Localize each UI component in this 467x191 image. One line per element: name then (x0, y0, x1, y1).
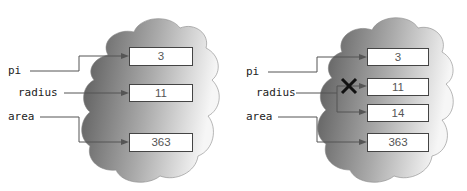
var-label-area: area (246, 110, 273, 123)
memory-cell-area: 363 (129, 133, 193, 152)
memory-cell-radius: 11 (129, 84, 193, 102)
memory-cell-radius-new: 14 (367, 104, 429, 122)
var-label-pi: pi (8, 64, 21, 77)
memory-cell-pi: 3 (367, 48, 429, 66)
var-label-radius: radius (18, 86, 58, 99)
memory-cell-radius-old: 11 (367, 78, 429, 96)
memory-cell-area: 363 (367, 133, 429, 152)
var-label-area: area (8, 110, 35, 123)
memory-cell-pi: 3 (129, 47, 193, 66)
var-label-pi: pi (246, 65, 259, 78)
var-label-radius: radius (256, 86, 296, 99)
memory-cloud-right (318, 18, 454, 183)
